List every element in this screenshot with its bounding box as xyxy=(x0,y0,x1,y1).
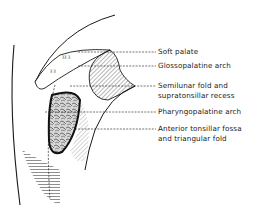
svg-text:ʒ ʒ: ʒ ʒ xyxy=(50,68,57,73)
label-pharyngopalatine-arch: Pharyngopalatine arch xyxy=(158,108,241,116)
pharyngeal-wall-outline xyxy=(12,45,20,205)
pharyngeal-wall-striations xyxy=(22,150,60,205)
label-semilunar-fold-line2: supratonsillar recess xyxy=(158,92,235,100)
tonsil-anatomy-drawing: ʒʒ ʒ ʒ ʒ xyxy=(0,0,263,210)
label-anterior-tonsillar-fossa-line2: and triangular fold xyxy=(158,135,227,143)
svg-text:ʒʒ ʒ: ʒʒ ʒ xyxy=(62,54,71,59)
label-semilunar-fold-line1: Semilunar fold and xyxy=(158,82,228,90)
label-anterior-tonsillar-fossa-line1: Anterior tonsillar fossa xyxy=(158,125,242,133)
label-glossopalatine-arch: Glossopalatine arch xyxy=(158,62,231,70)
label-soft-palate: Soft palate xyxy=(158,48,198,56)
